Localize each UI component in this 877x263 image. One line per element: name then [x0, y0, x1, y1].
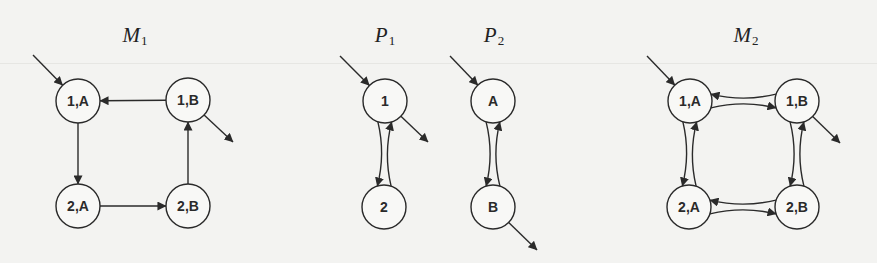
edge-m2-2b-to-2a — [710, 200, 776, 204]
initial-state-arrow-p1 — [340, 56, 369, 85]
state-machine-diagrams: 1,A1,B2,A2,B12AB1,A1,B2,A2,B — [0, 0, 877, 263]
edge-m2-1b-to-1a — [711, 94, 776, 98]
initial-state-arrow-m1 — [33, 55, 63, 85]
nodes-layer: 1,A1,B2,A2,B12AB1,A1,B2,A2,B — [56, 78, 819, 229]
state-node-m1-2b: 2,B — [166, 184, 210, 228]
edge-m2-1a-to-1b — [711, 104, 776, 108]
state-label: 2 — [380, 199, 388, 215]
edge-m2-1b-to-2b — [790, 122, 794, 186]
state-node-m2-2b: 2,B — [775, 185, 819, 229]
edge-p1-2-to-1 — [387, 122, 391, 186]
accepting-state-arrow-p1 — [401, 116, 428, 142]
accepting-state-arrow-p2 — [509, 222, 537, 250]
state-label: 1,A — [67, 93, 89, 109]
accepting-state-arrow-m1 — [204, 115, 233, 142]
state-label: 2,A — [678, 199, 700, 215]
state-node-p1-2: 2 — [362, 185, 406, 229]
accepting-state-arrow-m2 — [813, 116, 840, 143]
state-label: A — [488, 93, 498, 109]
initial-state-arrow-m2 — [647, 56, 675, 85]
state-node-p1-1: 1 — [363, 79, 407, 123]
state-node-m1-1b: 1,B — [166, 78, 210, 122]
state-label: 1 — [381, 93, 389, 109]
edges-layer — [33, 55, 840, 250]
state-label: 1,A — [679, 93, 701, 109]
state-node-m2-2a: 2,A — [667, 185, 711, 229]
edge-m2-2a-to-1a — [692, 122, 696, 186]
state-node-m2-1b: 1,B — [775, 79, 819, 123]
state-node-p2-a: A — [471, 79, 515, 123]
edge-m1-1b-to-1a — [100, 100, 166, 101]
state-node-m1-2a: 2,A — [56, 184, 100, 228]
edge-m2-2b-to-1b — [800, 122, 804, 186]
edge-m2-2a-to-2b — [710, 210, 776, 214]
state-node-p2-b: B — [471, 185, 515, 229]
state-label: 1,B — [786, 93, 808, 109]
state-node-m1-1a: 1,A — [56, 79, 100, 123]
edge-p2-a-to-b — [486, 122, 490, 186]
state-node-m2-1a: 1,A — [668, 79, 712, 123]
state-label: 2,B — [177, 198, 199, 214]
state-label: 2,A — [67, 198, 89, 214]
state-label: 1,B — [177, 92, 199, 108]
state-label: 2,B — [786, 199, 808, 215]
initial-state-arrow-p2 — [450, 56, 478, 85]
edge-p2-b-to-a — [496, 122, 500, 186]
edge-m2-1a-to-2a — [682, 122, 686, 186]
edge-p1-1-to-2 — [377, 122, 381, 186]
state-label: B — [488, 199, 498, 215]
